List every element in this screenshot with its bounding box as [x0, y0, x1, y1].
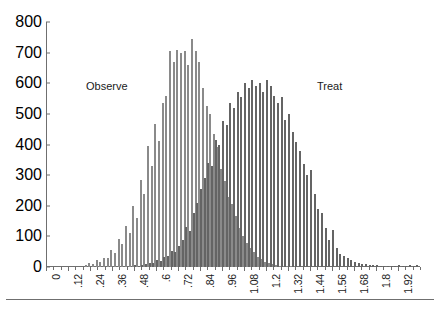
bar-treat	[402, 266, 404, 267]
y-tick-label: 600	[15, 74, 42, 92]
bar-treat	[167, 256, 169, 267]
x-tick-mark	[75, 267, 76, 270]
x-tick-mark-major	[398, 267, 399, 271]
bar-treat	[233, 108, 235, 267]
bar-observe	[165, 96, 167, 268]
bar-treat	[237, 92, 239, 267]
x-tick-mark	[127, 267, 128, 270]
x-tick-label: .72	[182, 274, 194, 288]
y-tick-label: 200	[15, 197, 42, 215]
x-tick-label: 1.08	[248, 274, 260, 294]
x-tick-mark-major	[134, 267, 135, 271]
x-tick-mark	[149, 267, 150, 270]
x-tick-mark	[413, 267, 414, 270]
x-tick-mark-major	[46, 267, 47, 271]
bar-observe	[158, 141, 160, 267]
bar-treat	[204, 178, 206, 267]
bar-treat	[189, 231, 191, 267]
x-tick-mark	[391, 267, 392, 270]
bar-treat	[171, 251, 173, 267]
bar-treat	[160, 261, 162, 267]
x-tick-mark	[141, 267, 142, 270]
x-tick-mark	[420, 267, 421, 270]
bar-observe	[136, 218, 138, 267]
x-tick-mark	[405, 267, 406, 270]
bar-observe	[132, 206, 134, 267]
bar-treat	[387, 266, 389, 267]
bar-treat	[391, 266, 393, 267]
bar-treat	[281, 97, 283, 267]
bar-treat	[277, 103, 279, 267]
x-tick-mark	[163, 267, 164, 270]
x-tick-mark	[369, 267, 370, 270]
bar-treat	[328, 240, 330, 267]
bar-treat	[292, 132, 294, 267]
x-tick-mark	[325, 267, 326, 270]
x-tick-label: 1.44	[314, 274, 326, 294]
bar-observe	[107, 258, 109, 267]
bar-treat	[178, 246, 180, 267]
x-tick-mark	[119, 267, 120, 270]
histogram-figure: 0100200300400500600700800 0.12.24.36.48.…	[0, 0, 440, 312]
y-tick-label: 0	[33, 258, 42, 276]
x-tick-mark	[193, 267, 194, 270]
bar-treat	[207, 163, 209, 267]
bar-treat	[145, 264, 147, 267]
bar-treat	[270, 86, 272, 267]
x-tick-mark	[171, 267, 172, 270]
x-tick-mark	[281, 267, 282, 270]
x-tick-mark	[251, 267, 252, 270]
bar-treat	[218, 145, 220, 268]
bar-treat	[303, 164, 305, 267]
x-tick-mark-major	[310, 267, 311, 271]
bar-treat	[413, 266, 415, 267]
x-tick-mark	[61, 267, 62, 270]
x-tick-mark-major	[288, 267, 289, 271]
bar-observe	[125, 226, 127, 267]
x-tick-mark	[207, 267, 208, 270]
bar-treat	[141, 265, 143, 267]
bar-observe	[103, 258, 105, 267]
bar-treat	[369, 265, 371, 267]
x-tick-mark-major	[156, 267, 157, 271]
x-tick-mark-major	[266, 267, 267, 271]
y-tick-label: 300	[15, 166, 42, 184]
bar-observe	[110, 250, 112, 267]
x-tick-label: 0	[50, 274, 62, 280]
bar-observe	[143, 194, 145, 267]
x-tick-label: 1.92	[402, 274, 414, 294]
bar-treat	[152, 263, 154, 267]
bar-treat	[372, 265, 374, 267]
bar-treat	[229, 103, 231, 267]
bar-treat	[332, 230, 334, 267]
x-tick-mark-major	[354, 267, 355, 271]
x-tick-label: .24	[94, 274, 106, 288]
bar-observe	[88, 263, 90, 267]
bar-treat	[266, 80, 268, 267]
x-tick-mark	[185, 267, 186, 270]
x-tick-mark	[259, 267, 260, 270]
bar-treat	[185, 227, 187, 267]
x-tick-mark	[317, 267, 318, 270]
bottom-divider	[6, 299, 434, 300]
x-tick-mark	[229, 267, 230, 270]
x-tick-mark-major	[178, 267, 179, 271]
bar-treat	[284, 120, 286, 267]
bar-treat	[134, 265, 136, 267]
x-tick-mark	[339, 267, 340, 270]
bar-treat	[255, 86, 257, 267]
x-tick-mark	[273, 267, 274, 270]
bar-treat	[215, 140, 217, 267]
bar-treat	[182, 240, 184, 267]
x-tick-mark	[105, 267, 106, 270]
y-tick-label: 800	[15, 13, 42, 31]
x-tick-mark-major	[90, 267, 91, 271]
bar-treat	[248, 88, 250, 267]
bar-observe	[99, 262, 101, 268]
bar-treat	[196, 203, 198, 267]
bar-treat	[288, 114, 290, 267]
bar-treat	[336, 248, 338, 267]
bar-treat	[299, 151, 301, 267]
x-tick-mark	[83, 267, 84, 270]
x-tick-label: 1.68	[358, 274, 370, 294]
